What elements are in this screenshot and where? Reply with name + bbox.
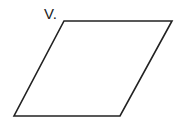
parallelogram-shape bbox=[14, 21, 172, 116]
parallelogram-svg bbox=[0, 0, 182, 125]
vertex-label: V. bbox=[44, 6, 57, 21]
parallelogram-diagram: V. bbox=[0, 0, 182, 125]
